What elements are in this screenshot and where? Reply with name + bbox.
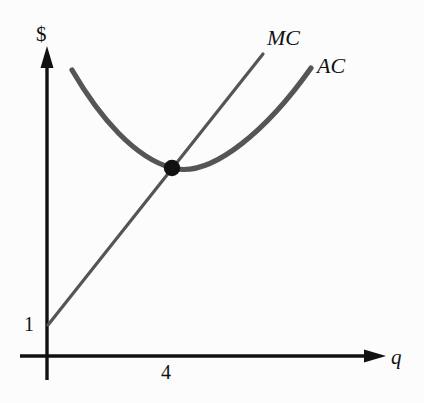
ac-curve-label: AC [317,55,345,77]
x-axis [20,350,386,363]
mc-curve-label: MC [267,27,300,49]
cost-curves-figure: $ q MC AC 1 4 [0,0,424,403]
ac-curve [72,68,311,169]
chart-canvas [0,0,424,403]
x-axis-label: q [391,347,402,368]
y-axis-label: $ [36,24,47,45]
y-axis [41,46,54,380]
y-axis-tick-label-1: 1 [24,314,34,334]
mc-curve [48,54,263,325]
mc-ac-intersection-marker [164,160,180,176]
x-axis-tick-label-4: 4 [161,362,171,382]
